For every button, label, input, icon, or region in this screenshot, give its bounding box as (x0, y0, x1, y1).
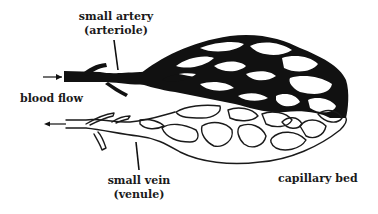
vein-label-line2: (venule) (104, 188, 174, 202)
venule-cell (228, 108, 258, 121)
vein-pointer-line (136, 142, 139, 170)
venule-cell (238, 124, 266, 146)
venule-network (66, 105, 346, 163)
venule-cell (271, 132, 306, 150)
venule-stub-3 (94, 132, 106, 150)
venule-cell (300, 120, 326, 138)
outflow-arrow-icon (44, 122, 66, 127)
vein-label-line1: small vein (104, 174, 174, 188)
venule-cell (202, 123, 233, 147)
artery-pointer-line (114, 40, 118, 70)
venule-cell (162, 124, 198, 142)
artery-label: small artery (arteriole) (72, 10, 160, 38)
venule-cell (262, 112, 292, 127)
arteriole-lower-branch (105, 82, 128, 97)
inflow-arrow-icon (43, 74, 62, 80)
artery-label-line2: (arteriole) (72, 24, 160, 38)
artery-label-line1: small artery (72, 10, 160, 24)
vein-label: small vein (venule) (104, 174, 174, 202)
venule-cell (140, 119, 164, 128)
capillary-bed-label: capillary bed (278, 172, 358, 186)
venule-cell (176, 105, 220, 118)
capillary-bed-diagram: small artery (arteriole) blood flow smal… (0, 0, 378, 214)
blood-flow-label: blood flow (20, 92, 83, 106)
